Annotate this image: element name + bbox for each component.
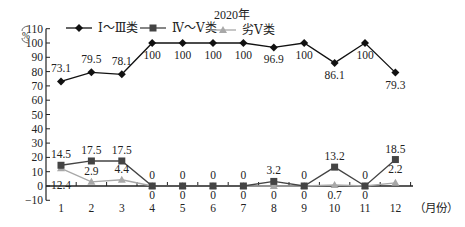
diamond-marker [87,68,95,76]
data-label: 17.5 [81,144,101,156]
chart-series [57,39,399,190]
square-marker [58,162,65,169]
diamond-marker [75,24,83,32]
triangle-marker [391,179,399,186]
x-tick-label: 1 [58,202,64,214]
data-label: 0 [301,169,307,181]
x-tick-label: 9 [301,202,307,214]
data-label: 0 [180,169,186,181]
x-tick-label: 10 [329,202,341,214]
y-tick-label: −10 [25,194,43,206]
x-tick-label: 2 [89,202,95,214]
data-label: 4.4 [115,163,130,175]
data-label: 18.5 [385,143,405,155]
data-label: 100 [174,49,192,61]
data-label: 86.1 [325,69,345,81]
y-tick-label: 0 [37,180,43,192]
data-label: 17.5 [112,144,132,156]
legend-label: Ⅰ～Ⅲ类 [98,21,138,35]
data-label: 13.2 [325,150,345,162]
square-marker [88,157,95,164]
diamond-marker [209,39,217,47]
legend-item-1: Ⅰ～Ⅲ类 [66,21,138,35]
y-tick-label: 80 [32,66,44,78]
x-tick-label: 5 [180,202,186,214]
diamond-marker [300,39,308,47]
data-label: 0 [180,189,186,201]
data-label: 0 [149,169,155,181]
x-tick-label: 11 [359,202,370,214]
chart-title: 2020年 [214,8,250,22]
x-tick-label: 7 [241,202,247,214]
data-label: 100 [144,49,162,61]
diamond-marker [331,59,339,67]
legend-label: Ⅳ～Ⅴ类 [172,21,217,35]
data-label: 73.1 [51,62,71,74]
x-tick-label: 6 [210,202,216,214]
y-tick-label: 20 [32,151,44,163]
data-label: 96.9 [264,53,284,65]
data-label: 0.7 [327,189,342,201]
legend-label: 劣Ⅴ类 [242,23,275,37]
svg-text:%: % [22,31,30,41]
x-tick-label: 8 [271,202,277,214]
x-axis-label: （月份） [414,202,458,214]
data-label: 0 [241,189,247,201]
data-label: 0 [149,189,155,201]
data-label: 12.4 [51,179,71,191]
diamond-marker [179,39,187,47]
data-label: 0 [210,189,216,201]
y-tick-label: 40 [32,123,44,135]
y-tick-label: 70 [32,80,44,92]
data-label: 0 [362,189,368,201]
square-marker [270,178,277,185]
data-label: 0 [301,189,307,201]
line-chart: 2020年 Ⅰ～Ⅲ类Ⅳ～Ⅴ类劣Ⅴ类 −100102030405060708090… [0,0,465,227]
data-label: 0 [362,169,368,181]
data-label: 0 [271,189,277,201]
x-tick-label: 3 [119,202,125,214]
data-label: 2.9 [84,165,99,177]
diamond-marker [239,39,247,47]
data-label: 100 [296,49,314,61]
data-label: 3.2 [267,164,282,176]
data-label: 78.1 [112,55,132,67]
x-tick-label: 12 [390,202,402,214]
diamond-marker [270,43,278,51]
data-label: 0 [241,169,247,181]
y-tick-label: 60 [32,94,44,106]
data-label: 14.5 [51,148,71,160]
legend-item-2: Ⅳ～Ⅴ类 [140,21,217,35]
data-label: 2.2 [388,163,403,175]
data-label: 100 [204,49,222,61]
data-label: 100 [235,49,253,61]
data-label: 79.3 [385,79,405,91]
legend-item-3: 劣Ⅴ类 [210,23,275,37]
y-tick-label: 30 [32,137,44,149]
y-tick-label: 10 [32,166,44,178]
square-marker [331,164,338,171]
y-tick-label: 50 [32,109,44,121]
title-text: 2020年 [214,8,250,22]
square-marker [150,25,157,32]
x-tick-label: 4 [149,202,155,214]
series-1 [57,39,399,85]
chart-legend: Ⅰ～Ⅲ类Ⅳ～Ⅴ类劣Ⅴ类 [66,21,275,37]
data-label: 0 [210,169,216,181]
data-label: 100 [356,49,374,61]
data-label: 79.5 [81,53,101,65]
diamond-marker [57,77,65,85]
y-tick-label: 90 [32,51,44,63]
